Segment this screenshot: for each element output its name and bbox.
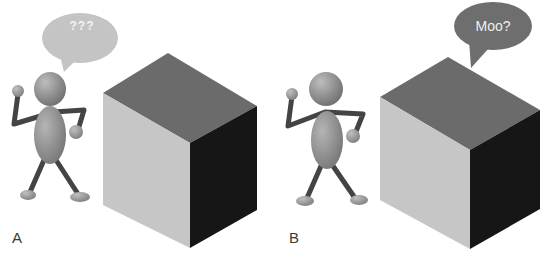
cube-a — [103, 53, 257, 248]
speech-bubble-b-text: Moo? — [453, 18, 533, 34]
stick-figure-a — [12, 72, 90, 202]
panel-a: ??? A — [0, 0, 275, 259]
panel-label-b: B — [289, 229, 299, 246]
panel-b: Moo? B — [275, 0, 549, 259]
panel-label-a: A — [12, 229, 22, 246]
speech-bubble-b — [454, 2, 532, 68]
stick-figure-b — [286, 72, 368, 206]
panel-b-scene — [275, 0, 549, 259]
panel-a-scene — [0, 0, 275, 259]
speech-bubble-a-text: ??? — [42, 19, 122, 33]
cube-b — [380, 57, 540, 249]
